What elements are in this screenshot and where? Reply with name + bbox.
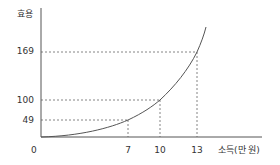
- y-tick-169: 169: [4, 47, 34, 56]
- x-tick-7: 7: [118, 146, 138, 155]
- x-tick-13: 13: [187, 146, 207, 155]
- utility-curve: [41, 27, 206, 137]
- origin-label: 0: [31, 146, 37, 155]
- utility-chart: 효용 169 100 49 0 7 10 13 소득(만 원): [0, 0, 280, 165]
- y-tick-100: 100: [4, 96, 34, 105]
- chart-svg: [0, 0, 280, 165]
- x-tick-10: 10: [150, 146, 170, 155]
- x-axis-label: 소득(만 원): [218, 146, 260, 155]
- guide-lines: [41, 52, 197, 137]
- y-axis-label: 효용: [17, 10, 33, 19]
- y-tick-49: 49: [4, 116, 34, 125]
